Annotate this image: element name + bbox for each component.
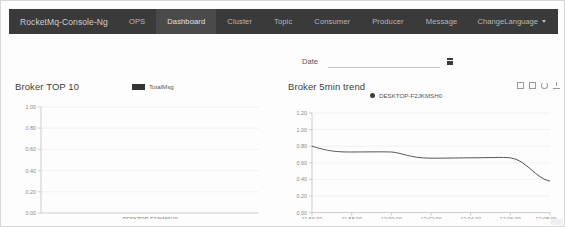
y-tick-left-0: 0.00 — [26, 210, 37, 216]
change-language-menu[interactable]: ChangeLanguage — [478, 17, 558, 26]
y-tick-right-5: 1.00 — [297, 127, 308, 133]
date-label: Date — [302, 57, 318, 66]
legend-dot-icon — [370, 93, 375, 98]
y-tick-right-1: 0.20 — [297, 193, 308, 199]
series-path-desktop — [312, 146, 550, 181]
nav-item-consumer[interactable]: Consumer — [303, 9, 361, 34]
scroll-corner[interactable] — [551, 219, 563, 225]
data-zoom-icon[interactable] — [517, 82, 524, 89]
nav-item-topic[interactable]: Topic — [263, 9, 303, 34]
x-tick-right-2: 12:00:00 — [381, 216, 402, 219]
restore-icon[interactable] — [541, 82, 548, 89]
filter-bar: Date — [9, 53, 558, 75]
legend-label: TotalMsg — [149, 83, 174, 90]
legend-label: DESKTOP-F2JKMSH0 — [379, 92, 442, 99]
chart-left-svg: 1.00 0.80 0.60 0.40 0.20 0.00 DESKTOP-F2… — [15, 99, 279, 219]
x-tick-right-4: 12:04:00 — [460, 216, 481, 219]
y-tick-left-1: 0.20 — [26, 189, 37, 195]
page-root: RocketMq-Console-Ng OPS Dashboard Cluste… — [0, 0, 565, 227]
chart-broker-5min-trend[interactable]: 1.20 1.00 0.80 0.60 0.40 0.20 0.00 11:56… — [288, 99, 560, 219]
chart-toolbox — [517, 82, 560, 89]
y-tick-right-0: 0.00 — [297, 210, 308, 216]
change-language-label: ChangeLanguage — [478, 17, 538, 26]
date-input[interactable] — [328, 55, 440, 68]
nav-item-producer[interactable]: Producer — [361, 9, 415, 34]
download-icon[interactable] — [553, 82, 560, 89]
chevron-down-icon — [542, 20, 546, 23]
panel-broker-5min-trend: Broker 5min trend DESKTOP-F2JKMSH0 — [288, 81, 560, 219]
x-tick-right-3: 12:02:00 — [421, 216, 442, 219]
legend-desktop-host[interactable]: DESKTOP-F2JKMSH0 — [370, 92, 442, 99]
y-tick-right-6: 1.20 — [297, 110, 308, 116]
y-tick-right-2: 0.40 — [297, 176, 308, 182]
date-filter-group: Date — [302, 55, 453, 68]
x-tick-right-5: 12:06:00 — [500, 216, 521, 219]
x-tick-left-0: DESKTOP-F2JKMSH0 — [122, 216, 177, 219]
app-brand[interactable]: RocketMq-Console-Ng — [9, 17, 118, 27]
data-zoom-reset-icon[interactable] — [529, 82, 536, 89]
y-tick-left-5: 1.00 — [26, 104, 37, 110]
nav-items: OPS Dashboard Cluster Topic Consumer Pro… — [118, 9, 468, 34]
y-tick-left-4: 0.80 — [26, 125, 37, 131]
nav-item-ops[interactable]: OPS — [118, 9, 156, 34]
nav-item-message[interactable]: Message — [415, 9, 469, 34]
x-tick-right-0: 11:56:00 — [302, 216, 323, 219]
y-tick-left-2: 0.40 — [26, 168, 37, 174]
panel-broker-top-10: Broker TOP 10 TotalMsg — [15, 81, 279, 219]
nav-item-dashboard[interactable]: Dashboard — [156, 9, 216, 34]
legend-totalmsg[interactable]: TotalMsg — [132, 83, 174, 90]
panel-right-header: Broker 5min trend DESKTOP-F2JKMSH0 — [288, 81, 560, 99]
chart-right-svg: 1.20 1.00 0.80 0.60 0.40 0.20 0.00 11:56… — [288, 99, 560, 219]
nav-item-cluster[interactable]: Cluster — [216, 9, 263, 34]
y-tick-left-3: 0.60 — [26, 146, 37, 152]
panel-left-header: Broker TOP 10 TotalMsg — [15, 81, 279, 99]
top-navbar: RocketMq-Console-Ng OPS Dashboard Cluste… — [9, 9, 558, 34]
x-tick-right-1: 11:58:00 — [341, 216, 362, 219]
legend-swatch-icon — [132, 84, 145, 90]
calendar-icon[interactable] — [447, 58, 453, 65]
chart-broker-top-10[interactable]: 1.00 0.80 0.60 0.40 0.20 0.00 DESKTOP-F2… — [15, 99, 279, 219]
y-tick-right-3: 0.60 — [297, 160, 308, 166]
y-tick-right-4: 0.80 — [297, 143, 308, 149]
